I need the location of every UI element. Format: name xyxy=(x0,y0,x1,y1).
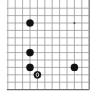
board-background xyxy=(0,0,95,92)
go-board[interactable] xyxy=(0,0,95,92)
black-stone[interactable] xyxy=(26,19,33,26)
black-stone-icon xyxy=(34,71,41,78)
black-stone-icon xyxy=(71,64,78,71)
black-stone[interactable] xyxy=(26,64,33,71)
black-stone[interactable] xyxy=(26,49,33,56)
black-stone-icon xyxy=(26,19,33,26)
black-stone-icon xyxy=(26,64,33,71)
black-stone[interactable] xyxy=(34,71,41,78)
black-stone[interactable] xyxy=(71,64,78,71)
go-board-grid[interactable] xyxy=(0,0,95,92)
black-stone-icon xyxy=(26,49,33,56)
star-point-icon xyxy=(73,22,75,24)
star-points xyxy=(73,22,75,24)
